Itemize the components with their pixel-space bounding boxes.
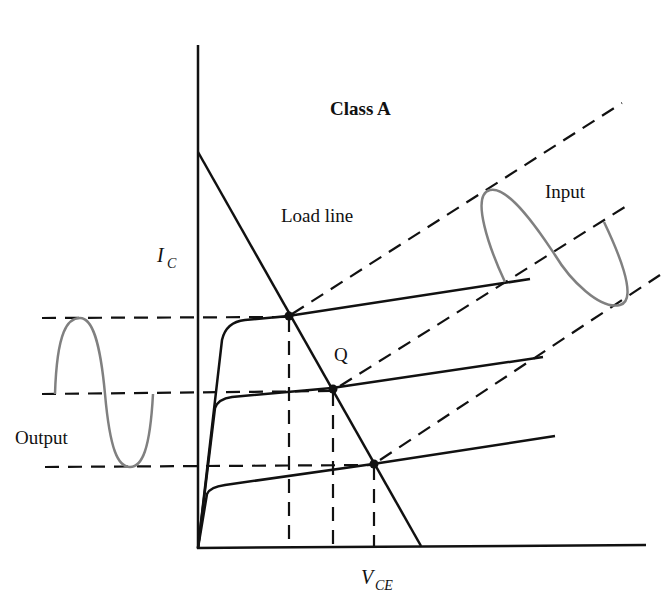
input-label: Input (545, 181, 586, 202)
curve-middle (198, 357, 543, 548)
point-lower (370, 460, 379, 469)
point-q (329, 385, 338, 394)
axes (197, 45, 646, 549)
y-axis-label: I (156, 244, 165, 266)
diagram-title: Class A (330, 98, 391, 119)
input-waveform (482, 190, 628, 306)
load-line-label: Load line (281, 205, 353, 226)
class-a-diagram: Class A Load line Input Output Q I C V C… (0, 0, 672, 603)
point-upper (285, 312, 294, 321)
q-point-label: Q (334, 344, 348, 365)
characteristic-curves (198, 279, 555, 548)
output-label: Output (15, 427, 69, 448)
output-projections (42, 317, 373, 467)
x-axis-label-sub: CE (375, 578, 393, 593)
curve-upper (198, 279, 530, 548)
curve-lower (198, 436, 555, 548)
input-projections (292, 103, 660, 460)
x-axis-label: V (361, 566, 376, 588)
vce-projections (289, 318, 374, 546)
y-axis-label-sub: C (167, 256, 177, 271)
